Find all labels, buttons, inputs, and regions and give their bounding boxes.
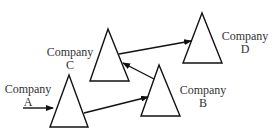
label-company-a-letter: A [0,96,56,109]
label-company-a: Company A [0,83,56,109]
label-company-d: Company D [217,30,273,56]
label-company-b-letter: B [175,97,231,110]
arrow-a-to-b [84,97,148,113]
label-company-b: Company B [175,84,231,110]
diagram-canvas: Company A Company B Company C Company D [0,0,278,139]
arrow-c-to-d [119,41,191,54]
label-company-c: Company C [42,46,98,72]
label-company-d-letter: D [217,43,273,56]
label-company-c-letter: C [42,59,98,72]
